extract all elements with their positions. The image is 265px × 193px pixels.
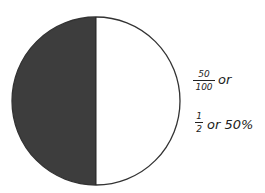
- numerator: 50: [193, 69, 215, 79]
- half-shaded-circle: [0, 0, 265, 193]
- or-label-1: or: [218, 72, 231, 87]
- or-50-percent-label: or 50%: [207, 117, 253, 132]
- denominator: 2: [195, 124, 203, 134]
- fraction-bar: [193, 80, 215, 81]
- fraction-1-over-2: 1 2: [195, 111, 203, 134]
- numerator: 1: [195, 111, 203, 121]
- shaded-half: [12, 17, 96, 185]
- fraction-50-over-100: 50 100: [193, 69, 215, 92]
- fraction-bar: [195, 122, 203, 123]
- denominator: 100: [193, 82, 215, 92]
- unshaded-half: [96, 17, 180, 185]
